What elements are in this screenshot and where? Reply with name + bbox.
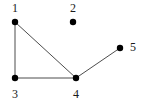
graph-diagram: 12345 [0,0,146,103]
graph-node-3 [12,75,18,81]
graph-node-label-4: 4 [73,88,79,100]
graph-node-1 [12,19,18,25]
graph-node-label-1: 1 [12,2,18,14]
graph-node-label-5: 5 [130,41,136,53]
graph-node-4 [73,75,79,81]
graph-edge-4-5 [76,48,120,78]
node-layer [12,19,123,81]
graph-node-label-2: 2 [70,2,76,14]
graph-node-2 [70,19,76,25]
graph-node-label-3: 3 [12,88,18,100]
edge-layer [15,22,120,78]
graph-node-5 [117,45,123,51]
graph-edge-1-4 [15,22,76,78]
